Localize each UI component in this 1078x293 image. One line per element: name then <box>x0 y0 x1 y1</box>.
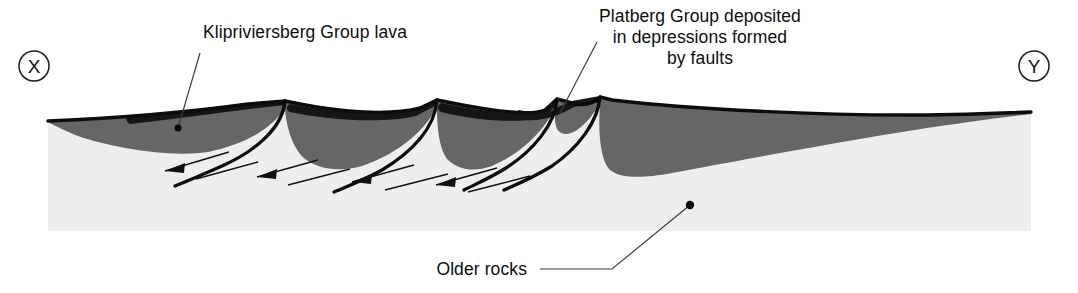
annotation-line: by faults <box>667 48 733 68</box>
annotation-label-klipriviersberg: Klipriviersberg Group lava <box>203 22 407 42</box>
endpoint-marker-x: X <box>19 51 49 81</box>
annotation-line: Klipriviersberg Group lava <box>203 22 407 42</box>
endpoint-marker-y: Y <box>1019 51 1049 81</box>
annotation-dot-older-rocks <box>686 201 694 209</box>
annotation-label-platberg: Platberg Group depositedin depressions f… <box>599 6 801 68</box>
annotation-line: in depressions formed <box>613 27 787 47</box>
annotation-line: Platberg Group deposited <box>599 6 801 26</box>
cross-section-figure: X Y Klipriviersberg Group lavaPlatberg G… <box>0 0 1078 293</box>
endpoint-x-label: X <box>28 56 41 77</box>
annotation-dot-klipriviersberg <box>174 124 181 131</box>
annotation-label-older-rocks: Older rocks <box>436 259 527 279</box>
cross-section-canvas: X Y Klipriviersberg Group lavaPlatberg G… <box>0 0 1078 293</box>
annotation-line: Older rocks <box>436 259 527 279</box>
endpoint-y-label: Y <box>1028 56 1041 77</box>
